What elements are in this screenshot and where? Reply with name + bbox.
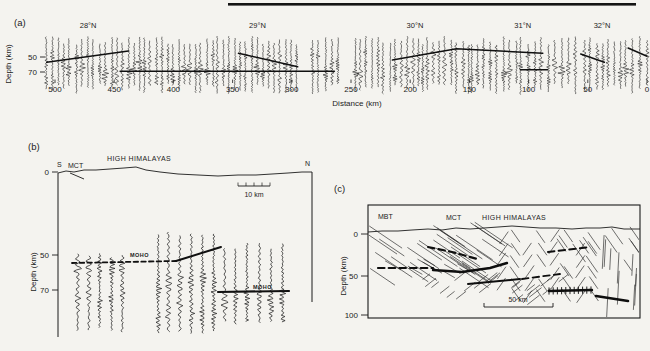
seismic-figure-canvas: 507050045040035030025020015010050028°N29… [0, 0, 650, 351]
b-seismic-trace [177, 235, 184, 331]
c-fabric-stroke [541, 279, 550, 286]
a-seismic-trace [181, 44, 186, 84]
c-fabric-stroke [559, 274, 568, 281]
a-seismic-trace [582, 40, 586, 91]
panel-b-label: (b) [28, 141, 40, 152]
latitude-label: 31°N [514, 21, 531, 30]
c-axes: 050100 [345, 205, 640, 320]
latitude-label: 28°N [80, 21, 97, 30]
c-fabric-stroke [636, 268, 637, 286]
c-fabric-stroke [588, 266, 597, 278]
a-seismic-trace [86, 36, 89, 87]
c-fabric-stroke [375, 252, 412, 277]
a-seismic-trace [211, 40, 215, 86]
a-seismic-trace [482, 38, 485, 88]
c-fabric-stroke [550, 253, 559, 265]
a-seismic-trace [601, 43, 605, 89]
a-seismic-trace [357, 39, 363, 90]
b-seismic-trace [86, 256, 92, 330]
panel-a-ylabel: Depth (km) [4, 44, 13, 84]
b-seismic-trace [97, 253, 102, 327]
a-seismic-trace [74, 45, 78, 94]
b-seismic-trace [221, 248, 228, 321]
a-seismic-trace [566, 38, 571, 84]
a-seismic-trace [417, 39, 421, 87]
a-seismic-trace [411, 38, 416, 88]
c-fabric-stroke [629, 238, 639, 252]
c-fabric-stroke [479, 283, 491, 292]
a-seismic-trace [155, 37, 159, 85]
panel-b-mct-label: MCT [68, 162, 84, 169]
a-seismic-trace [98, 44, 102, 84]
c-fabric-stroke [527, 285, 540, 295]
c-fabric-stroke [527, 295, 539, 305]
a-x-tick-label: 0 [645, 85, 650, 94]
panel-c-label: (c) [334, 183, 345, 194]
a-seismic-trace [61, 44, 66, 89]
c-fabric-stroke [370, 268, 395, 285]
c-structural-line [468, 279, 520, 284]
panel-c-mct-label: MCT [446, 214, 462, 221]
panel-b-scalebar-label: 10 km [244, 191, 263, 198]
b-seismic-trace [200, 235, 207, 334]
a-seismic-trace [552, 40, 557, 84]
a-seismic-trace [437, 41, 440, 85]
c-fabric-stroke [602, 235, 604, 269]
a-seismic-trace [215, 36, 219, 93]
c-structural-line [548, 247, 590, 252]
c-frame-box [368, 205, 640, 318]
a-seismic-trace [431, 42, 436, 83]
a-seismic-trace [170, 44, 175, 85]
a-seismic-trace [515, 41, 518, 84]
a-seismic-trace [50, 37, 54, 91]
a-seismic-trace [488, 42, 492, 91]
a-seismic-trace [376, 37, 380, 87]
a-seismic-trace [136, 37, 142, 91]
a-seismic-trace [421, 44, 424, 92]
c-y-tick-label: 100 [345, 311, 359, 320]
c-topography-line [368, 226, 640, 232]
c-y-tick-label: 0 [354, 230, 359, 239]
a-seismic-trace [91, 39, 94, 89]
panel-a-xlabel: Distance (km) [332, 99, 382, 108]
c-fabric-stroke [423, 274, 430, 280]
a-x-tick-label: 350 [226, 85, 240, 94]
panel-b-ylabel: Depth (km) [29, 252, 38, 292]
a-seismic-trace [160, 37, 164, 93]
c-structural-line [549, 290, 592, 291]
a-seismic-trace [110, 37, 114, 87]
c-fabric-stroke [564, 230, 573, 242]
a-x-tick-label: 300 [285, 85, 299, 94]
a-seismic-trace [178, 39, 181, 89]
a-seismic-trace [442, 36, 447, 85]
c-fabric-stroke [551, 277, 560, 289]
b-moho-line [218, 291, 289, 292]
a-seismic-trace [505, 40, 512, 90]
a-seismic-trace [381, 43, 385, 94]
c-fabric-stroke [576, 243, 585, 255]
b-seismic-trace [74, 254, 82, 331]
a-seismic-trace [613, 42, 615, 86]
profile-extent-bar [228, 3, 636, 6]
a-seismic-trace [198, 43, 204, 93]
c-structural-line [596, 296, 628, 301]
c-fabric-stroke [511, 230, 520, 242]
a-moho-line [628, 48, 647, 56]
a-seismic-trace [278, 40, 282, 94]
a-seismic-trace [102, 42, 109, 86]
a-seismic-trace [461, 41, 465, 87]
c-fabric-stroke [604, 239, 605, 266]
panel-b-south-label: S [57, 161, 62, 168]
a-seismic-trace [336, 37, 340, 83]
c-fabric-stroke [610, 248, 611, 269]
b-mct-fault-tick [70, 173, 84, 179]
a-latitude-labels: 28°N29°N30°N31°N32°N [80, 21, 611, 30]
a-seismic-trace [389, 43, 391, 92]
a-seismic-trace [573, 37, 577, 95]
c-fabric-stroke [523, 255, 532, 267]
c-fabric-stroke [497, 267, 506, 279]
a-x-tick-label: 200 [404, 85, 418, 94]
figure: 507050045040035030025020015010050028°N29… [0, 0, 650, 351]
c-fabric-stroke [431, 282, 438, 288]
a-seismic-trace [316, 40, 320, 93]
